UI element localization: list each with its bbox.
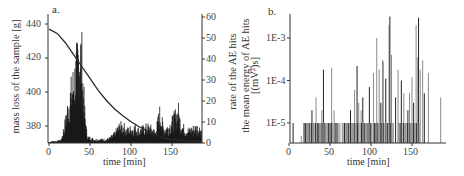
b-xlabel: time [min] (347, 156, 390, 167)
b-xtick-150: 150 (403, 146, 418, 157)
b-ytick-1e-4: 1E-4 (266, 75, 285, 86)
b-xtick-0: 0 (286, 146, 291, 157)
b-ytick-1e-5: 1E-5 (266, 117, 285, 128)
panel-b-plot (0, 0, 464, 176)
panel-b-label: b. (268, 5, 276, 17)
b-xtick-50: 50 (324, 146, 334, 157)
b-bars (293, 17, 441, 143)
b-ytick-1e-3: 1E-3 (266, 32, 285, 43)
b-ylabel-line2: [(mV²)s] (249, 41, 260, 111)
figure: a. 440 420 400 380 60 50 40 30 20 10 0 0… (0, 0, 464, 176)
